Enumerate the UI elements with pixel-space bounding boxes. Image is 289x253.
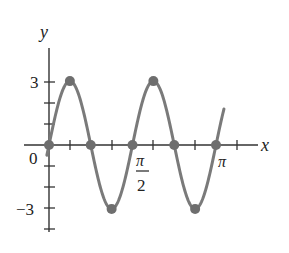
- data-point: [169, 140, 179, 150]
- data-point: [86, 140, 96, 150]
- data-point: [190, 204, 200, 214]
- pi-over-2-numerator: π: [136, 152, 145, 169]
- data-point: [148, 76, 158, 86]
- data-point: [128, 140, 138, 150]
- x-axis-label: x: [260, 135, 269, 155]
- y-tick-3-label: 3: [30, 73, 39, 92]
- data-point: [211, 140, 221, 150]
- data-point: [44, 140, 54, 150]
- origin-label: 0: [29, 149, 38, 168]
- data-point: [65, 76, 75, 86]
- y-tick-neg3-label: −3: [16, 200, 34, 219]
- pi-over-2-denominator: 2: [137, 176, 146, 195]
- pi-label: π: [218, 153, 227, 170]
- data-point: [107, 204, 117, 214]
- sine-graph: y x 3 −3 0 π 2 π: [0, 0, 289, 253]
- y-axis-label: y: [38, 22, 48, 42]
